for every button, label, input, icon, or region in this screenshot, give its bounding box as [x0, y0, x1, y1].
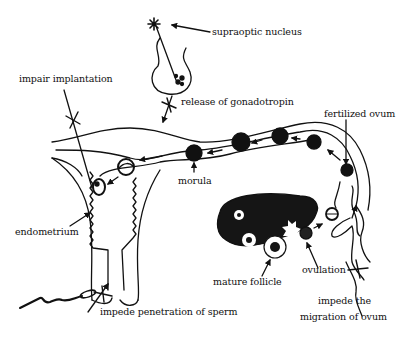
ovary [218, 194, 318, 258]
label-mature-follicle: mature follicle [213, 276, 282, 287]
blastocyst-embryos [93, 156, 162, 195]
uterus [52, 122, 370, 305]
ovum-migration-block [346, 260, 368, 316]
released-ovum [326, 208, 338, 220]
label-endometrium: endometrium [15, 226, 79, 237]
label-impede-penetration-of-sperm: impede penetration of sperm [100, 306, 237, 317]
nucleus-star-icon [148, 18, 160, 30]
label-impede-migration-line1: impede the [318, 295, 371, 306]
label-morula: morula [178, 175, 212, 186]
label-fertilized-ovum: fertilized ovum [324, 108, 395, 119]
label-impair-implantation: impair implantation [19, 73, 113, 84]
endometrium-right [122, 178, 136, 290]
mature-follicle-pointer [262, 260, 270, 276]
sperm-icon [20, 289, 97, 308]
label-ovulation: ovulation [302, 264, 346, 275]
contraception-diagram [0, 0, 403, 337]
ovulation-release-arrow [314, 224, 322, 228]
pituitary-gland [148, 18, 191, 94]
endometrium-pointer [70, 213, 90, 226]
label-release-of-gonadotropin: release of gonadotropin [181, 96, 294, 107]
gonadotropin-block [162, 96, 176, 122]
supraoptic-pointer [172, 25, 210, 32]
label-supraoptic-nucleus: supraoptic nucleus [212, 26, 302, 37]
label-impede-migration-line2: migration of ovum [300, 311, 387, 322]
